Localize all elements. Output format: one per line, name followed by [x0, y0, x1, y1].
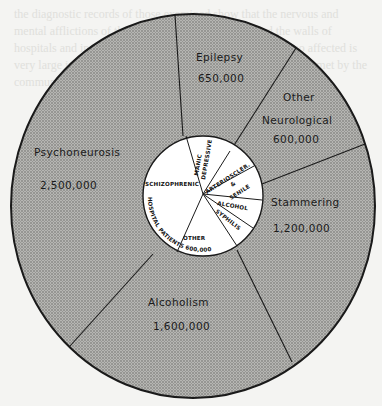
label-alcoholism: Alcoholism — [148, 296, 209, 308]
label-psychoneurosis: Psychoneurosis — [34, 146, 120, 158]
label-stammering: Stammering — [271, 196, 340, 208]
label-other-neurological-line1: Other — [283, 91, 315, 103]
value-alcoholism: 1,600,000 — [153, 320, 210, 332]
label-other-neurological-line2: Neurological — [262, 114, 332, 126]
label-schizophrenic: SCHIZOPHRENIC — [145, 181, 199, 187]
value-other-neurological: 600,000 — [273, 133, 319, 145]
value-stammering: 1,200,000 — [273, 222, 330, 234]
label-epilepsy: Epilepsy — [196, 51, 243, 63]
nested-pie-chart: Psychoneurosis 2,500,000 Epilepsy 650,00… — [0, 0, 382, 406]
value-epilepsy: 650,000 — [198, 72, 244, 84]
label-other-hospital: OTHER — [183, 235, 206, 241]
value-psychoneurosis: 2,500,000 — [40, 179, 97, 191]
